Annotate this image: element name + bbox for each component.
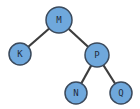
node-k: K — [9, 43, 31, 65]
node-q: Q — [110, 82, 132, 104]
tree-diagram: M K P N Q — [0, 0, 140, 109]
node-label: Q — [118, 88, 123, 98]
node-m: M — [46, 7, 72, 33]
node-n: N — [65, 82, 87, 104]
node-label: P — [94, 50, 100, 60]
node-label: K — [17, 49, 23, 59]
node-p: P — [85, 43, 109, 67]
node-label: M — [56, 15, 62, 25]
node-label: N — [73, 88, 78, 98]
